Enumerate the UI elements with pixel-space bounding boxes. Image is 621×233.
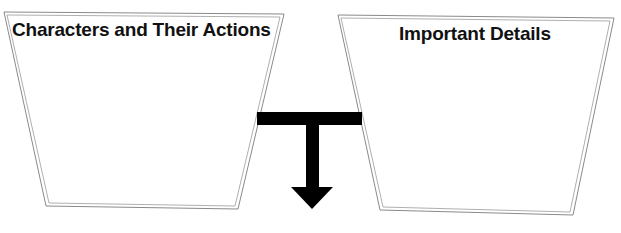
down-arrow-connector-icon <box>257 112 362 209</box>
box-title-characters-and-actions: Characters and Their Actions <box>12 19 271 41</box>
box-title-important-details: Important Details <box>399 23 551 45</box>
box-important-details <box>338 15 614 215</box>
box-characters-and-actions <box>4 12 284 209</box>
